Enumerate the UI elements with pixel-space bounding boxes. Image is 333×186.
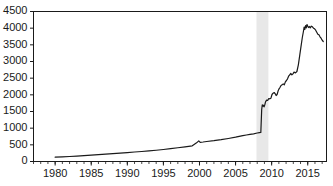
y-tick-label: 0 [21,154,27,166]
x-tick-label: 1990 [115,167,139,179]
x-axis-tick-labels: 19801985199019952000200520102015 [43,167,320,179]
y-tick-label: 2000 [3,88,27,100]
y-axis-ticks [30,12,34,162]
y-tick-label: 2500 [3,71,27,83]
y-tick-label: 4500 [3,4,27,16]
y-tick-label: 500 [9,138,27,150]
x-tick-label: 1980 [43,167,67,179]
y-tick-label: 1500 [3,104,27,116]
y-tick-label: 4000 [3,21,27,33]
plot-frame [34,12,327,162]
y-tick-label: 3500 [3,38,27,50]
x-tick-label: 2010 [259,167,283,179]
y-tick-label: 3000 [3,54,27,66]
chart-container: 050010001500200025003000350040004500 198… [0,0,333,186]
line-chart: 050010001500200025003000350040004500 198… [0,0,333,186]
x-tick-label: 1985 [79,167,103,179]
x-tick-label: 2000 [187,167,211,179]
x-tick-label: 2015 [295,167,319,179]
series-line-series-1 [55,25,323,158]
data-series-line [55,25,323,158]
y-axis-tick-labels: 050010001500200025003000350040004500 [3,4,27,166]
y-tick-label: 1000 [3,121,27,133]
x-tick-label: 2005 [223,167,247,179]
shaded-regions [256,12,268,162]
recession-band [256,12,268,162]
x-axis-ticks [34,162,323,166]
axes-box [34,12,327,162]
x-tick-label: 1995 [151,167,175,179]
